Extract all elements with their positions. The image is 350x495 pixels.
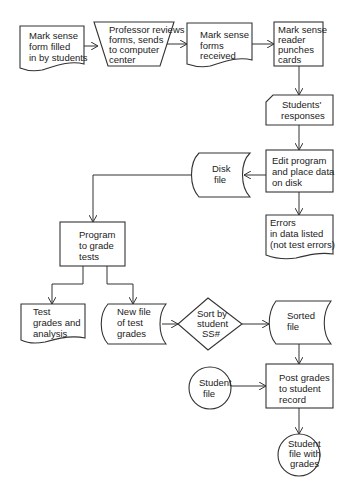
- svg-text:Disk: Disk: [212, 163, 231, 174]
- node-reader-punches-cards: Mark sense reader punches cards: [274, 22, 327, 66]
- svg-text:Edit program: Edit program: [272, 155, 326, 166]
- node-new-file-test-grades: New file of test grades: [101, 304, 166, 344]
- svg-text:analysis: analysis: [33, 328, 68, 339]
- svg-text:record: record: [279, 394, 306, 405]
- svg-text:to grade: to grade: [79, 240, 114, 251]
- node-errors-listed: Errors in data listed (not test errors): [266, 215, 335, 259]
- svg-text:Students': Students': [282, 99, 321, 110]
- arrow-n9-n10: [52, 266, 83, 304]
- svg-text:grades: grades: [290, 458, 319, 469]
- svg-text:grades and: grades and: [33, 317, 81, 328]
- svg-text:and place data: and place data: [272, 166, 335, 177]
- node-disk-file: Disk file: [192, 153, 251, 197]
- svg-text:to student: to student: [279, 383, 321, 394]
- arrow-n7-n9: [93, 175, 192, 222]
- svg-text:SS#: SS#: [202, 328, 221, 339]
- svg-text:center: center: [109, 54, 135, 65]
- node-forms-received: Mark sense forms received: [187, 23, 252, 67]
- node-program-grade-tests: Program to grade tests: [60, 222, 125, 266]
- node-student-file: Student file: [189, 367, 232, 409]
- svg-text:grades: grades: [117, 328, 146, 339]
- svg-text:file: file: [287, 321, 299, 332]
- svg-text:of test: of test: [117, 317, 143, 328]
- svg-text:in by students: in by students: [29, 52, 88, 63]
- node-student-file-with-grades: Student file with grades: [278, 434, 321, 476]
- svg-text:Errors: Errors: [270, 217, 296, 228]
- node-edit-program: Edit program and place data on disk: [266, 150, 335, 192]
- svg-text:(not test errors): (not test errors): [270, 239, 335, 250]
- svg-text:Post grades: Post grades: [279, 372, 330, 383]
- svg-text:on disk: on disk: [272, 177, 302, 188]
- svg-text:cards: cards: [278, 54, 301, 65]
- svg-text:form filled: form filled: [29, 41, 70, 52]
- svg-text:received: received: [200, 50, 236, 61]
- node-label: Mark sense: [29, 30, 78, 41]
- svg-text:in data listed: in data listed: [270, 228, 323, 239]
- svg-text:Test: Test: [33, 306, 51, 317]
- svg-text:responses: responses: [281, 110, 325, 121]
- node-sort-by-ssn: Sort by student SS#: [178, 298, 242, 350]
- svg-text:Mark sense: Mark sense: [200, 29, 249, 40]
- svg-text:file: file: [203, 388, 215, 399]
- node-mark-sense-form-filled: Mark sense form filled in by students: [20, 26, 88, 71]
- svg-text:Sorted: Sorted: [287, 310, 315, 321]
- svg-text:Program: Program: [79, 229, 116, 240]
- node-sorted-file: Sorted file: [269, 301, 331, 344]
- node-students-responses: Students' responses: [266, 95, 333, 125]
- svg-text:file: file: [214, 174, 226, 185]
- flowchart-canvas: Mark sense form filled in by students Pr…: [0, 0, 350, 495]
- svg-text:New file: New file: [117, 306, 151, 317]
- svg-text:tests: tests: [79, 251, 99, 262]
- node-test-grades-analysis: Test grades and analysis: [21, 304, 85, 343]
- arrow-n9-n11: [107, 266, 133, 304]
- node-post-grades: Post grades to student record: [266, 364, 333, 408]
- svg-text:Student: Student: [199, 377, 232, 388]
